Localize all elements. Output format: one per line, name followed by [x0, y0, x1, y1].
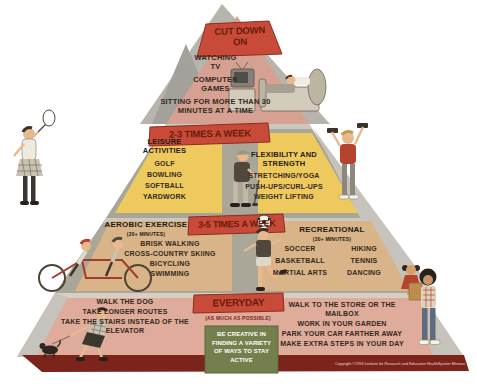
leisure-title: LEISURE ACTIVITIES [134, 137, 196, 156]
leisure-item: SOFTBALL [112, 180, 217, 191]
everyday-left-items: WALK THE DOG TAKE LONGER ROUTES TAKE THE… [55, 297, 195, 336]
recreational-panel-text: RECREATIONAL (30+ MINUTES) SOCCER BASKET… [268, 225, 396, 281]
everyday-item: PARK YOUR CAR FARTHER AWAY [277, 329, 407, 338]
recreational-item: BASKETBALL [268, 257, 332, 266]
aerobic-title: AEROBIC EXERCISE [86, 220, 206, 230]
flexibility-item: STRETCHING/YOGA [232, 171, 336, 182]
flexibility-panel-text: FLEXIBILITY AND STRENGTH STRETCHING/YOGA… [232, 150, 336, 203]
aerobic-item: BRISK WALKING [102, 239, 238, 249]
recreational-col1: SOCCER BASKETBALL MARTIAL ARTS [268, 245, 332, 280]
cut-down-item: WATCHING TV [190, 53, 242, 72]
recreational-item: TENNIS [332, 257, 396, 266]
everyday-right-items: WALK TO THE STORE OR THE MAILBOX WORK IN… [277, 300, 407, 349]
everyday-item: WALK THE DOG [55, 297, 195, 306]
everyday-item: WORK IN YOUR GARDEN [277, 319, 407, 328]
flexibility-item: PUSH-UPS/CURL-UPS [232, 182, 336, 193]
recreational-item: HIKING [332, 245, 396, 254]
cut-down-on-banner-label: CUT DOWN ON [210, 25, 271, 49]
recreational-col2: HIKING TENNIS DANCING [332, 245, 396, 280]
cut-down-on-items: WATCHING TV COMPUTER GAMES SITTING FOR M… [143, 53, 288, 118]
recreational-subtitle: (30+ MINUTES) [268, 236, 396, 242]
recreational-title: RECREATIONAL [268, 225, 396, 235]
cut-down-item: COMPUTER GAMES [190, 75, 242, 94]
copyright-text: Copyright ©1996 Institute for Research a… [335, 362, 465, 370]
activity-pyramid-poster: CUT DOWN ON 2-3 TIMES A WEEK 3-5 TIMES A… [0, 0, 477, 387]
recreational-item: DANCING [332, 269, 396, 278]
everyday-item: WALK TO THE STORE OR THE MAILBOX [277, 300, 407, 318]
aerobic-panel-title: AEROBIC EXERCISE (20+ MINUTES) [86, 220, 206, 237]
aerobic-item: SWIMMING [102, 269, 238, 279]
flexibility-item: WEIGHT LIFTING [232, 192, 336, 203]
flexibility-title: FLEXIBILITY AND STRENGTH [248, 150, 320, 169]
everyday-banner-label: EVERYDAY [193, 296, 284, 310]
everyday-item: TAKE LONGER ROUTES [55, 307, 195, 316]
creative-box-text: BE CREATIVE IN FINDING A VARIETY OF WAYS… [207, 330, 276, 365]
aerobic-subtitle: (20+ MINUTES) [86, 231, 206, 237]
everyday-subtitle: (AS MUCH AS POSSIBLE) [188, 315, 288, 321]
everyday-item: MAKE EXTRA STEPS IN YOUR DAY [277, 339, 407, 348]
aerobic-item: CROSS-COUNTRY SKIING [102, 249, 238, 259]
aerobic-item: BICYCLING [102, 259, 238, 269]
aerobic-panel-items: BRISK WALKING CROSS-COUNTRY SKIING BICYC… [102, 239, 238, 280]
leisure-panel-text: LEISURE ACTIVITIES GOLF BOWLING SOFTBALL… [112, 137, 217, 203]
leisure-item: GOLF [112, 158, 217, 169]
recreational-item: SOCCER [268, 245, 332, 254]
everyday-item: TAKE THE STAIRS INSTEAD OF THE ELEVATOR [61, 317, 189, 335]
cut-down-item: SITTING FOR MORE THAN 30 MINUTES AT A TI… [152, 97, 280, 116]
leisure-item: YARDWORK [112, 191, 217, 202]
leisure-item: BOWLING [112, 169, 217, 180]
recreational-item: MARTIAL ARTS [268, 269, 332, 278]
badminton-player-illustration [14, 110, 55, 205]
